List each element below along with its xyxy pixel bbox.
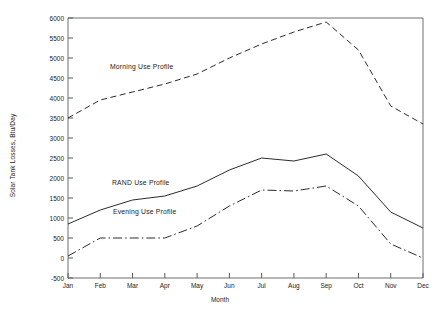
series-line bbox=[68, 154, 423, 228]
chart-container: Solar Tank Losses, Btu/Day -500050010001… bbox=[0, 0, 440, 310]
series-line bbox=[68, 22, 423, 124]
x-axis-label: Month bbox=[0, 296, 440, 303]
plot-area bbox=[0, 0, 440, 310]
tick-marks bbox=[68, 18, 423, 278]
series-annotation-label: Evening Use Profile bbox=[113, 208, 177, 215]
axes-frame bbox=[68, 18, 423, 278]
data-series bbox=[68, 22, 423, 258]
series-annotation-label: RAND Use Profile bbox=[112, 179, 170, 186]
series-annotation-label: Morning Use Profile bbox=[110, 63, 174, 70]
series-line bbox=[68, 186, 423, 258]
